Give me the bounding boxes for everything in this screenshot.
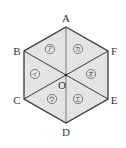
region-label: イ [32,71,38,77]
region-label: ア [47,46,53,52]
vertex-label-e: E [111,94,118,106]
vertex-label-a: A [62,12,70,24]
vertex-label-f: F [111,45,117,57]
vertex-label-d: D [62,126,70,138]
region-label: ウ [49,95,55,102]
region-label: オ [88,71,94,77]
hexagon-diagram: A F E D C B O ア カ イ オ ウ エ [0,0,126,148]
center-point [65,74,67,76]
region-label: カ [75,46,81,52]
region-label: エ [75,96,81,102]
hexagon-figure: A F E D C B O ア カ イ オ ウ エ [0,0,126,148]
vertex-label-c: C [13,94,20,106]
center-label-o: O [58,79,66,91]
vertex-label-b: B [13,45,20,57]
